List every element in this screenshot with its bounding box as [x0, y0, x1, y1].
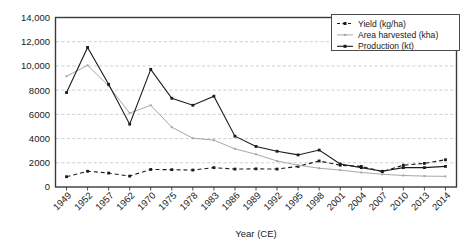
ytick-label: 2000	[29, 157, 50, 168]
data-point-marker	[402, 174, 404, 176]
data-point-marker	[170, 97, 173, 100]
legend-marker-sample	[344, 34, 346, 36]
ytick-label: 12,000	[21, 36, 50, 47]
data-point-marker	[107, 172, 110, 175]
xtick-label: 2004	[345, 190, 368, 213]
series-line	[67, 65, 446, 176]
series-2	[66, 64, 447, 177]
ytick-label: 6000	[29, 109, 50, 120]
data-point-marker	[255, 153, 257, 155]
chart-container: 0200040006000800010,00012,00014,000 1949…	[0, 0, 471, 244]
data-point-marker	[297, 164, 299, 166]
data-point-marker	[255, 145, 258, 148]
data-point-marker	[213, 139, 215, 141]
gridlines-group	[56, 42, 456, 163]
data-point-marker	[339, 169, 341, 171]
xtick-label: 1978	[177, 190, 200, 213]
data-point-marker	[234, 148, 236, 150]
ytick-label: 10,000	[21, 60, 50, 71]
x-axis-title: Year (CE)	[235, 228, 276, 239]
data-point-marker	[381, 173, 383, 175]
data-point-marker	[402, 166, 405, 169]
legend-label: Area harvested (kha)	[358, 30, 438, 40]
xtick-label: 1962	[114, 190, 137, 213]
xtick-label: 1970	[135, 190, 158, 213]
legend: Yield (kg/ha)Area harvested (kha)Product…	[332, 15, 460, 52]
data-point-marker	[65, 91, 68, 94]
data-point-marker	[212, 95, 215, 98]
xtick-label: 1989	[240, 190, 263, 213]
data-point-marker	[276, 168, 279, 171]
legend-marker-sample	[344, 22, 347, 25]
xtick-label: 2014	[430, 190, 453, 213]
xtick-label: 1975	[156, 190, 179, 213]
data-point-marker	[318, 160, 321, 163]
ytick-label: 4000	[29, 133, 50, 144]
data-point-marker	[107, 83, 110, 86]
data-point-marker	[128, 123, 131, 126]
data-point-marker	[381, 170, 384, 173]
legend-marker-sample	[344, 45, 347, 48]
data-point-marker	[212, 166, 215, 169]
ytick-label: 14,000	[21, 12, 50, 23]
ytick-label: 0	[45, 181, 50, 192]
data-point-marker	[149, 168, 152, 171]
data-point-marker	[86, 170, 89, 173]
data-point-marker	[129, 112, 131, 114]
data-point-marker	[255, 167, 258, 170]
data-point-marker	[171, 126, 173, 128]
xtick-label: 1957	[93, 190, 116, 213]
xtick-label: 2013	[409, 190, 432, 213]
data-point-marker	[318, 149, 321, 152]
data-point-marker	[87, 64, 89, 66]
data-point-marker	[444, 158, 447, 161]
xtick-label: 2010	[388, 190, 411, 213]
data-point-marker	[444, 165, 447, 168]
xtick-labels-group: 1949195219571962197019751978198319861989…	[51, 190, 453, 213]
xtick-label: 1952	[72, 190, 95, 213]
data-point-marker	[276, 150, 279, 153]
data-point-marker	[86, 46, 89, 49]
data-point-marker	[128, 175, 131, 178]
data-point-marker	[360, 166, 363, 169]
xtick-label: 2007	[367, 190, 390, 213]
data-point-marker	[170, 168, 173, 171]
data-point-marker	[66, 75, 68, 77]
ytick-label: 8000	[29, 85, 50, 96]
data-point-marker	[234, 135, 237, 138]
data-point-marker	[423, 162, 426, 165]
data-point-marker	[276, 160, 278, 162]
xtick-label: 1983	[198, 190, 221, 213]
ytick-labels-group: 0200040006000800010,00012,00014,000	[21, 12, 50, 193]
xtick-label: 2001	[324, 190, 347, 213]
legend-label: Yield (kg/ha)	[358, 19, 406, 29]
data-point-marker	[297, 154, 300, 157]
data-point-marker	[150, 104, 152, 106]
xtick-label: 1995	[282, 190, 305, 213]
line-chart: 0200040006000800010,00012,00014,000 1949…	[0, 0, 471, 244]
data-point-marker	[423, 175, 425, 177]
data-point-marker	[65, 175, 68, 178]
xtick-label: 1949	[51, 190, 74, 213]
data-point-marker	[191, 169, 194, 172]
data-point-marker	[191, 104, 194, 107]
legend-label: Production (kt)	[358, 41, 414, 51]
data-point-marker	[360, 171, 362, 173]
data-point-marker	[423, 166, 426, 169]
data-point-marker	[192, 137, 194, 139]
xtick-label: 1986	[219, 190, 242, 213]
data-point-marker	[444, 175, 446, 177]
data-point-marker	[402, 164, 405, 167]
xtick-label: 1992	[261, 190, 284, 213]
data-point-marker	[339, 163, 342, 166]
data-point-marker	[318, 167, 320, 169]
xtick-label: 1998	[303, 190, 326, 213]
data-point-marker	[234, 168, 237, 171]
data-point-marker	[149, 68, 152, 71]
